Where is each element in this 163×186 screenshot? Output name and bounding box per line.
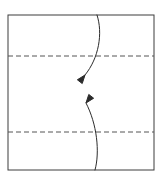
diagram-canvas — [0, 0, 163, 186]
paper-outline — [8, 15, 154, 170]
origami-diagram — [0, 0, 163, 186]
